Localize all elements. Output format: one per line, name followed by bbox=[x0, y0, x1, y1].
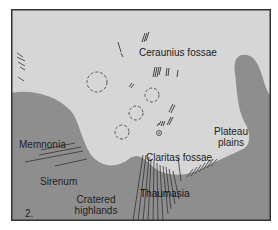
label-ceraunius-fossae: Ceraunius fossae bbox=[139, 47, 217, 58]
label-plateau-plains: Plateau plains bbox=[211, 126, 251, 148]
mars-geologic-map: Ceraunius fossae Plateau plains Claritas… bbox=[11, 9, 271, 221]
label-claritas-fossae: Claritas fossae bbox=[146, 152, 212, 163]
figure-number: 2. bbox=[25, 208, 33, 219]
label-highlands: highlands bbox=[71, 205, 121, 216]
label-sirenum: Sirenum bbox=[40, 176, 77, 187]
label-plains: plains bbox=[211, 137, 251, 148]
label-plateau: Plateau bbox=[211, 126, 251, 137]
label-cratered: Cratered bbox=[71, 194, 121, 205]
label-thaumasia: Thaumasia bbox=[140, 188, 189, 199]
label-cratered-highlands: Cratered highlands bbox=[71, 194, 121, 216]
label-memnonia: Memnonia bbox=[19, 139, 66, 150]
